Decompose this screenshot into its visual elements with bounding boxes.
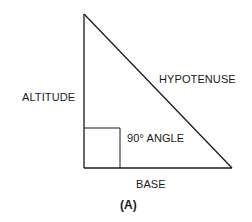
right-triangle-diagram <box>0 0 252 222</box>
right-angle-label: 90° ANGLE <box>127 132 184 144</box>
altitude-label: ALTITUDE <box>22 91 75 103</box>
base-label: BASE <box>136 178 166 190</box>
hypotenuse-label: HYPOTENUSE <box>159 73 236 85</box>
figure-caption: (A) <box>120 199 137 212</box>
right-angle-marker <box>84 128 120 168</box>
hypotenuse-side <box>84 14 232 168</box>
